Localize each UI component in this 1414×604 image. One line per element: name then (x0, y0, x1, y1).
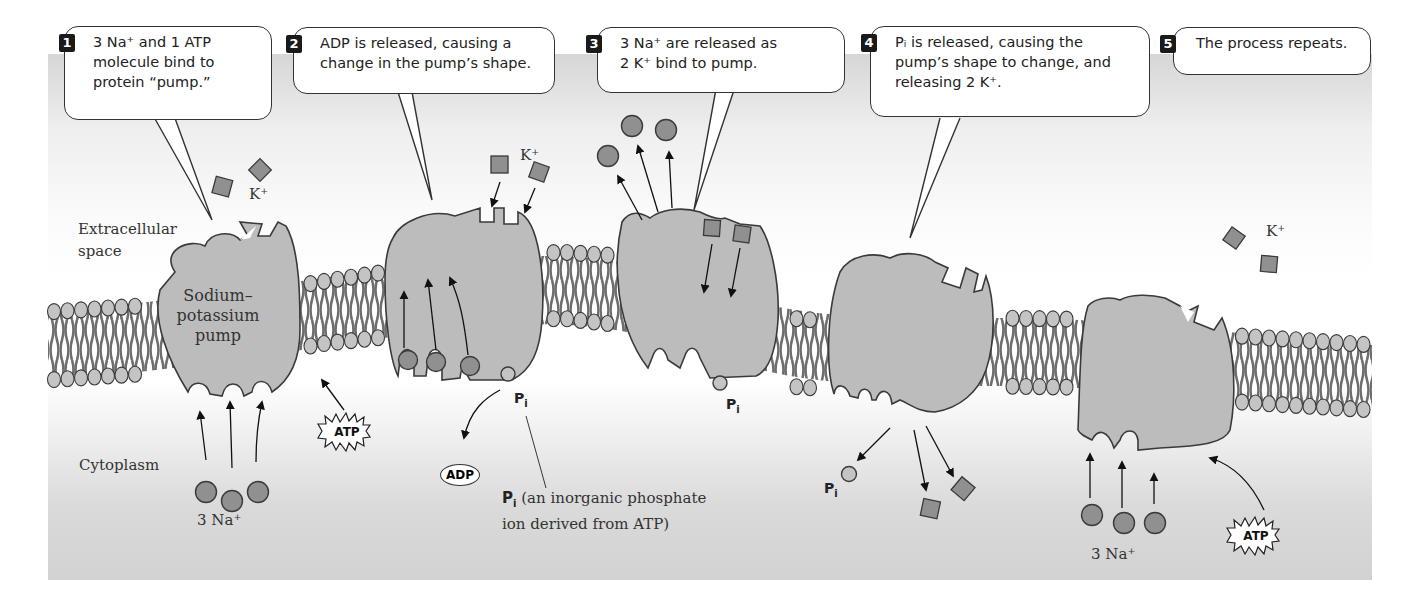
lipid-head (345, 333, 358, 349)
lipid-head (1060, 311, 1073, 327)
lipid-head (88, 301, 101, 317)
lipid-head (1060, 379, 1073, 395)
lipid-head (304, 338, 317, 354)
lipid-head (102, 300, 115, 316)
lipid-head (1330, 335, 1343, 351)
lipid-head (1344, 336, 1357, 352)
lipid-head (1276, 397, 1289, 413)
step-3-number: 3 (586, 35, 602, 53)
pump-label: Sodium– potassium pump (168, 286, 268, 346)
step-2-number: 2 (286, 35, 302, 53)
k-plus-label-2: K⁺ (520, 146, 539, 164)
step-5-callout: 5 The process repeats. (1173, 27, 1371, 75)
pi-label-2: Pi (726, 396, 740, 415)
lipid-head (331, 334, 344, 350)
lipid-head (1330, 400, 1343, 416)
lipid-head (1033, 311, 1046, 327)
lipid-head (1317, 399, 1330, 415)
lipid-head (48, 372, 61, 388)
k-plus-label-3: K⁺ (1266, 222, 1285, 240)
lipid-head (48, 304, 61, 320)
lipid-head (790, 311, 803, 327)
lipid-head (372, 330, 385, 346)
lipid-head (1006, 310, 1019, 326)
step-4-number: 4 (861, 34, 877, 52)
lipid-head (804, 312, 817, 328)
lipid-head (1357, 336, 1370, 352)
pi-note-symbol: Pi (502, 489, 516, 507)
lipid-head (1047, 311, 1060, 327)
lipid-head (1303, 333, 1316, 349)
lipid-head (1020, 378, 1033, 394)
diagram-stage: Extracellular space Cytoplasm Sodium– po… (0, 0, 1414, 604)
pump-state-4 (829, 254, 994, 519)
lipid-head (1020, 310, 1033, 326)
lipid-head (61, 371, 74, 387)
lipid-head (358, 267, 371, 283)
lipid-head (304, 276, 317, 292)
lipid-head (115, 367, 128, 383)
lipid-head (1047, 379, 1060, 395)
lipid-head (1263, 396, 1276, 412)
lipid-head (547, 245, 560, 261)
lipid-head (1263, 330, 1276, 346)
three-na-label-2: 3 Na⁺ (1091, 545, 1135, 563)
lipid-head (372, 265, 385, 281)
lipid-head (1344, 401, 1357, 417)
lipid-head (1006, 378, 1019, 394)
lipid-head (331, 271, 344, 287)
lipid-head (601, 316, 614, 332)
lipid-head (790, 379, 803, 395)
lipid-head (804, 380, 817, 396)
lipid-head (547, 311, 560, 327)
lipid-head (1317, 334, 1330, 350)
three-na-label-1: 3 Na⁺ (197, 511, 241, 529)
k-plus-label-1: K⁺ (249, 185, 268, 203)
lipid-head (561, 244, 574, 260)
lipid-head (1236, 394, 1249, 410)
step-1-callout: 1 3 Na⁺ and 1 ATP molecule bind to prote… (64, 26, 272, 120)
lipid-head (129, 366, 142, 382)
lipid-head (61, 303, 74, 319)
lipid-head (129, 298, 142, 314)
lipid-head (75, 302, 88, 318)
step-3-callout: 3 3 Na⁺ are released as 2 K⁺ bind to pum… (597, 27, 845, 93)
adp-molecule: ADP (440, 464, 480, 486)
lipid-head (1276, 331, 1289, 347)
pump-state-3 (598, 116, 779, 379)
lipid-head (88, 369, 101, 385)
step-5-number: 5 (1160, 35, 1176, 53)
lipid-head (358, 331, 371, 347)
lipid-head (574, 245, 587, 261)
lipid-head (318, 273, 331, 289)
lipid-head (1249, 329, 1262, 345)
lipid-head (1249, 395, 1262, 411)
lipid-head (1033, 379, 1046, 395)
step-4-callout: 4 Pᵢ is released, causing the pump’s sha… (870, 26, 1150, 117)
lipid-head (1357, 401, 1370, 417)
lipid-head (115, 299, 128, 315)
lipid-head (588, 314, 601, 330)
pi-label-1: Pi (514, 390, 528, 409)
lipid-head (601, 247, 614, 263)
lipid-head (588, 246, 601, 262)
lipid-head (1290, 332, 1303, 348)
step-2-callout: 2 ADP is released, causing a change in t… (293, 27, 555, 94)
lipid-head (1290, 397, 1303, 413)
lipid-head (345, 269, 358, 285)
extracellular-space-label: Extracellular space (78, 218, 177, 262)
pump-state-2 (385, 208, 543, 380)
cytoplasm-label: Cytoplasm (79, 456, 159, 474)
lipid-head (561, 311, 574, 327)
lipid-head (75, 370, 88, 386)
pi-label-3: Pi (824, 480, 838, 499)
lipid-head (574, 312, 587, 328)
pi-note: Pi (an inorganic phosphate ion derived f… (502, 488, 706, 535)
lipid-head (1303, 398, 1316, 414)
lipid-head (318, 336, 331, 352)
step-1-number: 1 (59, 34, 75, 52)
lipid-head (102, 368, 115, 384)
atp-label-1: ATP (328, 425, 366, 439)
atp-label-2: ATP (1237, 529, 1275, 543)
lipid-head (1236, 328, 1249, 344)
